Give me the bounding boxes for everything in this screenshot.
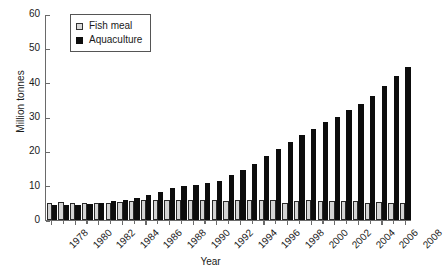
bar-aquaculture[interactable] <box>299 135 304 220</box>
bar-aquaculture[interactable] <box>205 183 210 220</box>
bar-group[interactable] <box>293 15 305 220</box>
bar-group[interactable] <box>164 15 176 220</box>
bar-aquaculture[interactable] <box>52 205 57 220</box>
x-tick-label: 1990 <box>208 227 232 251</box>
x-tick-mark-minor <box>169 221 170 224</box>
bar-aquaculture[interactable] <box>181 186 186 220</box>
y-axis-title: Million tonnes <box>15 42 26 162</box>
x-tick-mark-minor <box>240 221 241 224</box>
x-tick-label: 2006 <box>397 227 421 251</box>
bar-aquaculture[interactable] <box>252 164 257 220</box>
x-tick-label: 2008 <box>421 227 444 251</box>
bar-aquaculture[interactable] <box>134 198 139 220</box>
x-tick-mark-minor <box>287 221 288 224</box>
bar-group[interactable] <box>341 15 353 220</box>
bar-group[interactable] <box>388 15 400 220</box>
x-tick-mark-minor <box>75 221 76 224</box>
bar-group[interactable] <box>46 15 58 220</box>
bar-aquaculture[interactable] <box>217 181 222 220</box>
bar-aquaculture[interactable] <box>335 117 340 220</box>
bar-group[interactable] <box>258 15 270 220</box>
bar-group[interactable] <box>329 15 341 220</box>
x-tick-mark-minor <box>63 221 64 224</box>
bar-group[interactable] <box>187 15 199 220</box>
x-tick-mark-minor <box>145 221 146 224</box>
x-tick-mark-minor <box>275 221 276 224</box>
bar-aquaculture[interactable] <box>111 201 116 220</box>
chart-legend: Fish meal Aquaculture <box>70 14 151 52</box>
x-tick-mark-minor <box>216 221 217 224</box>
bar-aquaculture[interactable] <box>382 86 387 220</box>
y-tick-label: 0 <box>34 214 40 225</box>
x-tick-label: 1980 <box>90 227 114 251</box>
filled-square-icon <box>76 37 83 44</box>
bar-aquaculture[interactable] <box>75 205 80 220</box>
x-tick-label: 2004 <box>373 227 397 251</box>
bar-aquaculture[interactable] <box>394 76 399 220</box>
x-tick-mark-minor <box>134 221 135 224</box>
bar-aquaculture[interactable] <box>229 175 234 220</box>
bar-aquaculture[interactable] <box>323 122 328 220</box>
bar-aquaculture[interactable] <box>170 188 175 220</box>
x-tick-mark-minor <box>51 221 52 224</box>
x-tick-label: 2000 <box>326 227 350 251</box>
x-tick-mark-minor <box>381 221 382 224</box>
bar-aquaculture[interactable] <box>264 156 269 220</box>
bar-group[interactable] <box>376 15 388 220</box>
y-tick-label: 50 <box>29 42 40 53</box>
bar-group[interactable] <box>364 15 376 220</box>
x-tick-label: 1992 <box>232 227 256 251</box>
bar-group[interactable] <box>235 15 247 220</box>
x-tick-mark-minor <box>299 221 300 224</box>
x-tick-label: 2002 <box>350 227 374 251</box>
bar-aquaculture[interactable] <box>64 205 69 220</box>
bar-group[interactable] <box>352 15 364 220</box>
bar-aquaculture[interactable] <box>99 203 104 220</box>
x-tick-label: 1994 <box>255 227 279 251</box>
bar-aquaculture[interactable] <box>87 204 92 220</box>
bar-aquaculture[interactable] <box>358 104 363 220</box>
x-tick-label: 1996 <box>279 227 303 251</box>
bar-group[interactable] <box>176 15 188 220</box>
bar-aquaculture[interactable] <box>288 142 293 220</box>
x-tick-label: 1984 <box>137 227 161 251</box>
x-tick-mark-minor <box>252 221 253 224</box>
bar-aquaculture[interactable] <box>405 67 410 220</box>
x-tick-label: 1986 <box>161 227 185 251</box>
x-tick-mark-minor <box>122 221 123 224</box>
bar-aquaculture[interactable] <box>346 110 351 220</box>
bar-group[interactable] <box>58 15 70 220</box>
bar-group[interactable] <box>223 15 235 220</box>
x-tick-mark-minor <box>393 221 394 224</box>
bar-group[interactable] <box>270 15 282 220</box>
bar-aquaculture[interactable] <box>240 170 245 220</box>
x-tick-label: 1978 <box>66 227 90 251</box>
bar-aquaculture[interactable] <box>311 129 316 220</box>
y-tick-label: 10 <box>29 180 40 191</box>
x-tick-label: 1998 <box>303 227 327 251</box>
x-tick-mark-minor <box>193 221 194 224</box>
bar-group[interactable] <box>152 15 164 220</box>
bar-aquaculture[interactable] <box>193 185 198 220</box>
bar-group[interactable] <box>199 15 211 220</box>
bar-group[interactable] <box>305 15 317 220</box>
bar-aquaculture[interactable] <box>158 192 163 220</box>
bar-group[interactable] <box>399 15 411 220</box>
bar-aquaculture[interactable] <box>146 195 151 220</box>
bar-aquaculture[interactable] <box>370 96 375 220</box>
x-tick-mark-minor <box>228 221 229 224</box>
bar-group[interactable] <box>211 15 223 220</box>
bar-aquaculture[interactable] <box>276 149 281 220</box>
bar-group[interactable] <box>282 15 294 220</box>
y-tick-label: 40 <box>29 77 40 88</box>
bar-aquaculture[interactable] <box>123 200 128 220</box>
y-tick-label: 60 <box>29 8 40 19</box>
x-tick-mark-minor <box>405 221 406 224</box>
y-tick-label: 30 <box>29 111 40 122</box>
x-tick-mark-minor <box>322 221 323 224</box>
bar-group[interactable] <box>246 15 258 220</box>
bar-group[interactable] <box>317 15 329 220</box>
x-tick-mark-minor <box>346 221 347 224</box>
x-tick-mark-minor <box>334 221 335 224</box>
